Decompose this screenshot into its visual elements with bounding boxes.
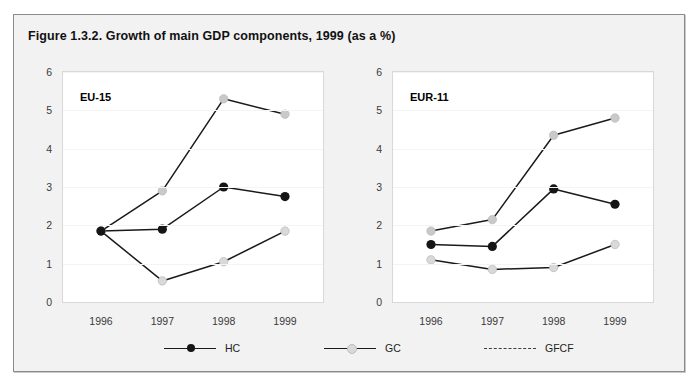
legend-label-gfcf: GFCF [545,342,574,354]
legend-label-hc: HC [225,342,240,354]
panel-title-eu15: EU-15 [80,91,111,103]
y-axis-tick-eu15: 2 [22,219,52,231]
legend-swatch-gc-icon [324,342,376,354]
chart-lines-eur11 [352,57,672,357]
data-point-gfcf-eur11 [488,215,496,223]
y-axis-tick-eu15: 1 [22,258,52,270]
data-point-gfcf-eu15 [219,95,227,103]
data-point-gfcf-eur11 [549,131,557,139]
x-axis-tick-eu15: 1998 [212,315,235,327]
gridline-eu15 [63,264,323,265]
legend-item-gfcf[interactable]: GFCF [484,337,574,359]
chart-panel-eur11: EUR-11 01234561996199719981999 [352,57,672,357]
series-line-gfcf-eur11 [431,118,615,231]
y-axis-tick-eu15: 3 [22,181,52,193]
y-axis-tick-eur11: 1 [352,258,382,270]
y-axis-tick-eu15: 5 [22,104,52,116]
gridline-eu15 [63,225,323,226]
x-axis-tick-eur11: 1999 [603,315,626,327]
gridline-eu15 [63,149,323,150]
legend-marker-hc-icon [187,344,195,352]
x-axis-tick-eu15: 1999 [273,315,296,327]
x-axis-tick-eu15: 1996 [89,315,112,327]
y-axis-tick-eur11: 6 [352,66,382,78]
series-line-hc-eur11 [431,189,615,247]
gridline-eur11 [393,149,653,150]
y-axis-tick-eur11: 5 [352,104,382,116]
legend-swatch-gfcf-icon [484,342,536,354]
data-point-gc-eu15 [158,277,166,285]
y-axis-tick-eur11: 0 [352,296,382,308]
data-point-hc-eu15 [96,226,105,235]
series-line-gc-eur11 [431,245,615,270]
data-point-hc-eur11 [488,242,497,251]
x-axis-tick-eur11: 1996 [419,315,442,327]
legend-item-hc[interactable]: HC [164,337,240,359]
y-axis-tick-eu15: 4 [22,143,52,155]
data-point-hc-eu15 [280,192,289,201]
series-line-gfcf-eu15 [101,99,285,231]
x-axis-tick-eur11: 1998 [542,315,565,327]
legend-label-gc: GC [385,342,401,354]
data-point-gfcf-eur11 [427,227,435,235]
y-axis-tick-eur11: 3 [352,181,382,193]
data-point-gc-eur11 [611,240,619,248]
gridline-eu15 [63,110,323,111]
gridline-eur11 [393,225,653,226]
data-point-gc-eu15 [219,258,227,266]
y-axis-tick-eur11: 2 [352,219,382,231]
x-axis-tick-eu15: 1997 [151,315,174,327]
data-point-hc-eur11 [610,200,619,209]
data-point-gc-eur11 [488,265,496,273]
data-point-hc-eur11 [426,240,435,249]
y-axis-tick-eu15: 0 [22,296,52,308]
data-point-hc-eur11 [549,184,558,193]
panel-title-eur11: EUR-11 [410,91,449,103]
data-point-gc-eu15 [281,227,289,235]
data-point-gfcf-eur11 [611,114,619,122]
chart-legend: HCGCGFCF [14,337,686,363]
gridline-eur11 [393,187,653,188]
x-axis-tick-eur11: 1997 [481,315,504,327]
gridline-eur11 [393,110,653,111]
y-axis-tick-eu15: 6 [22,66,52,78]
figure-container: Figure 1.3.2. Growth of main GDP compone… [13,14,685,372]
legend-item-gc[interactable]: GC [324,337,401,359]
gridline-eur11 [393,72,653,73]
chart-lines-eu15 [22,57,342,357]
legend-marker-gc-icon [347,344,357,354]
series-line-gc-eu15 [101,231,285,281]
figure-title: Figure 1.3.2. Growth of main GDP compone… [28,29,395,43]
chart-panel-eu15: EU-15 01234561996199719981999 [22,57,342,357]
y-axis-tick-eur11: 4 [352,143,382,155]
legend-swatch-hc-icon [164,342,216,354]
legend-line-gfcf [484,348,536,349]
gridline-eu15 [63,187,323,188]
gridline-eu15 [63,72,323,73]
gridline-eur11 [393,264,653,265]
